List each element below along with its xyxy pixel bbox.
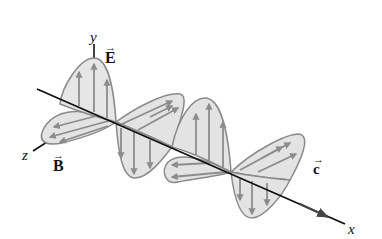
velocity-label: → c <box>313 162 320 177</box>
y-axis-label: y <box>90 30 97 45</box>
z-axis-label: z <box>22 148 28 163</box>
em-wave-diagram <box>0 0 382 239</box>
b-field-lobe-4 <box>231 134 305 180</box>
b-field-label: → B <box>53 158 64 174</box>
velocity-arrow <box>300 204 328 217</box>
z-axis-line <box>33 142 47 151</box>
vector-arrow-icon: → <box>105 42 116 53</box>
e-field-label: → E <box>105 50 116 66</box>
vector-arrow-icon: → <box>313 154 320 165</box>
vector-arrow-icon: → <box>53 150 64 161</box>
e-field-lobe-4 <box>231 172 290 218</box>
x-axis-label: x <box>348 222 355 237</box>
